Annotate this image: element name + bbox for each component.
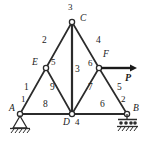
joint-F-marker bbox=[96, 65, 101, 70]
joint-letter-E: E bbox=[32, 58, 38, 68]
joint-number-A: 1 bbox=[21, 95, 26, 104]
joint-number-B: 2 bbox=[121, 95, 126, 104]
member-label-1: 1 bbox=[24, 83, 29, 93]
joint-letter-A: A bbox=[9, 104, 15, 114]
joint-letter-D: D bbox=[63, 118, 70, 128]
load-arrow-P bbox=[101, 65, 137, 72]
member-label-6: 6 bbox=[100, 100, 105, 110]
joint-letter-B: B bbox=[133, 104, 139, 114]
joint-number-D: 4 bbox=[75, 118, 80, 127]
member-7-line bbox=[72, 68, 99, 114]
joint-number-C: 3 bbox=[68, 3, 73, 12]
pin-support-A bbox=[10, 116, 30, 133]
truss-diagram: A 1 B 2 C 3 D 4 E 5 F 6 1 2 3 4 5 6 7 8 … bbox=[0, 0, 148, 142]
member-label-7: 7 bbox=[88, 83, 93, 93]
member-label-8: 8 bbox=[43, 100, 48, 110]
joint-D-marker bbox=[69, 111, 74, 116]
joint-E-marker bbox=[43, 65, 48, 70]
member-2-line bbox=[46, 22, 72, 68]
joint-letter-F: F bbox=[103, 50, 109, 60]
member-4-line bbox=[72, 22, 99, 68]
roller-support-B bbox=[117, 114, 138, 131]
joint-letter-C: C bbox=[80, 14, 86, 24]
joint-C-marker bbox=[69, 19, 74, 24]
joint-number-E: 5 bbox=[51, 58, 56, 67]
member-label-2: 2 bbox=[42, 36, 47, 46]
truss-drawing-canvas bbox=[0, 0, 148, 142]
member-label-3: 3 bbox=[75, 65, 80, 75]
member-label-5: 5 bbox=[117, 83, 122, 93]
member-label-4: 4 bbox=[96, 36, 101, 46]
member-label-9: 9 bbox=[50, 83, 55, 93]
joint-number-F: 6 bbox=[88, 59, 93, 68]
load-label-P: P bbox=[125, 73, 131, 83]
